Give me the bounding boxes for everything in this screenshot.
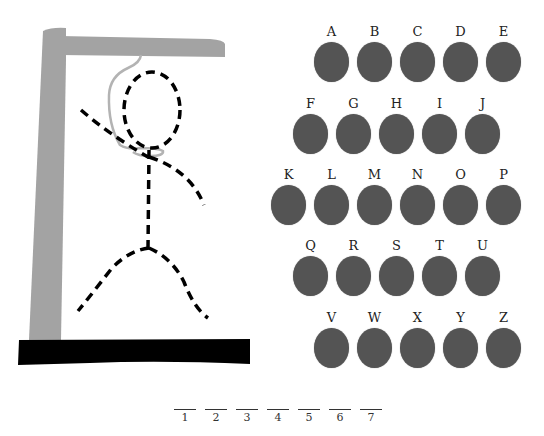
letter-button[interactable] [357,42,392,82]
letter-key-x[interactable]: X [400,328,435,368]
rope [109,55,163,156]
gallows-post [29,28,66,340]
letter-button[interactable] [271,185,306,225]
blank-line [298,409,320,410]
letter-button[interactable] [465,114,500,154]
letter-label: V [314,311,349,325]
letter-button[interactable] [486,328,521,368]
blank-line [360,409,382,410]
letter-label: A [314,25,349,39]
blank-index: 7 [360,412,382,424]
word-blank-5: 5 [298,409,320,424]
letter-key-s[interactable]: S [379,256,414,296]
letter-key-u[interactable]: U [465,256,500,296]
letter-key-b[interactable]: B [357,42,392,82]
word-blank-1: 1 [174,409,196,424]
letter-key-g[interactable]: G [336,114,371,154]
blank-line [267,409,289,410]
letter-key-e[interactable]: E [486,42,521,82]
left-leg [78,248,149,311]
letter-key-n[interactable]: N [400,185,435,225]
letter-label: M [357,168,392,182]
letter-button[interactable] [314,328,349,368]
word-blank-6: 6 [329,409,351,424]
blank-index: 3 [236,412,258,424]
letter-key-a[interactable]: A [314,42,349,82]
letter-button[interactable] [443,185,478,225]
letter-label: E [486,25,521,39]
letter-button[interactable] [336,256,371,296]
letter-button[interactable] [422,114,457,154]
blank-index: 6 [329,412,351,424]
right-arm [149,157,204,205]
letter-button[interactable] [443,328,478,368]
letter-key-j[interactable]: J [465,114,500,154]
word-blank-7: 7 [360,409,382,424]
letter-button[interactable] [293,114,328,154]
letter-button[interactable] [336,114,371,154]
letter-key-w[interactable]: W [357,328,392,368]
letter-key-c[interactable]: C [400,42,435,82]
letter-button[interactable] [400,328,435,368]
letter-button[interactable] [379,114,414,154]
letter-button[interactable] [465,256,500,296]
word-blank-4: 4 [267,409,289,424]
letter-button[interactable] [486,42,521,82]
letter-label: B [357,25,392,39]
letter-button[interactable] [400,185,435,225]
letter-label: R [336,239,371,253]
blank-line [329,409,351,410]
letter-label: G [336,97,371,111]
letter-key-p[interactable]: P [486,185,521,225]
letter-button[interactable] [314,185,349,225]
letter-button[interactable] [422,256,457,296]
letter-button[interactable] [357,328,392,368]
letter-button[interactable] [379,256,414,296]
blank-index: 1 [174,412,196,424]
letter-key-f[interactable]: F [293,114,328,154]
letter-label: D [443,25,478,39]
letter-key-m[interactable]: M [357,185,392,225]
letter-label: C [400,25,435,39]
letter-label: J [465,97,500,111]
letter-label: I [422,97,457,111]
letter-label: S [379,239,414,253]
letter-label: Y [443,311,478,325]
letter-key-z[interactable]: Z [486,328,521,368]
letter-label: Q [293,239,328,253]
letter-button[interactable] [293,256,328,296]
letter-label: P [486,168,521,182]
letter-key-i[interactable]: I [422,114,457,154]
letter-label: Z [486,311,521,325]
letter-button[interactable] [486,185,521,225]
blank-line [205,409,227,410]
letter-key-d[interactable]: D [443,42,478,82]
word-blank-2: 2 [205,409,227,424]
head [124,72,180,148]
letter-key-l[interactable]: L [314,185,349,225]
letter-button[interactable] [400,42,435,82]
letter-key-t[interactable]: T [422,256,457,296]
letter-label: N [400,168,435,182]
letter-button[interactable] [443,42,478,82]
blank-index: 5 [298,412,320,424]
word-blank-3: 3 [236,409,258,424]
blank-line [174,409,196,410]
letter-key-r[interactable]: R [336,256,371,296]
letter-key-y[interactable]: Y [443,328,478,368]
blank-index: 4 [267,412,289,424]
letter-button[interactable] [314,42,349,82]
body [148,150,149,248]
letter-label: L [314,168,349,182]
letter-button[interactable] [357,185,392,225]
letter-label: F [293,97,328,111]
letter-key-q[interactable]: Q [293,256,328,296]
letter-key-k[interactable]: K [271,185,306,225]
gallows-beam [60,36,225,57]
letter-label: O [443,168,478,182]
letter-label: H [379,97,414,111]
letter-label: X [400,311,435,325]
letter-key-v[interactable]: V [314,328,349,368]
letter-key-h[interactable]: H [379,114,414,154]
letter-key-o[interactable]: O [443,185,478,225]
